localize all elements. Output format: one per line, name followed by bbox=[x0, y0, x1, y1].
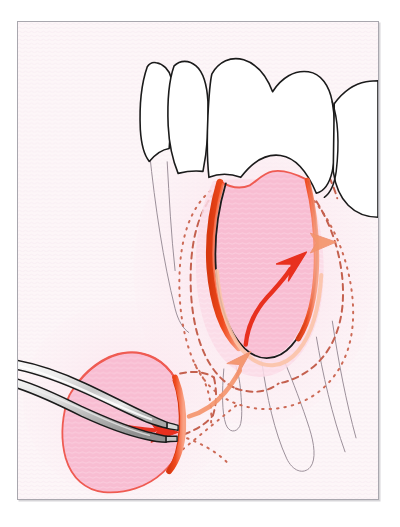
crown-premolar-2 bbox=[168, 61, 208, 173]
figure-frame: Connective tissue graft transfer to reci… bbox=[17, 21, 379, 500]
recipient-gingival-flap bbox=[196, 171, 324, 377]
dental-graft-illustration bbox=[18, 22, 378, 499]
crown-premolar-1 bbox=[140, 63, 171, 162]
illustration-root: Connective tissue graft transfer to reci… bbox=[0, 0, 400, 527]
forceps-tip-lower bbox=[166, 436, 177, 442]
